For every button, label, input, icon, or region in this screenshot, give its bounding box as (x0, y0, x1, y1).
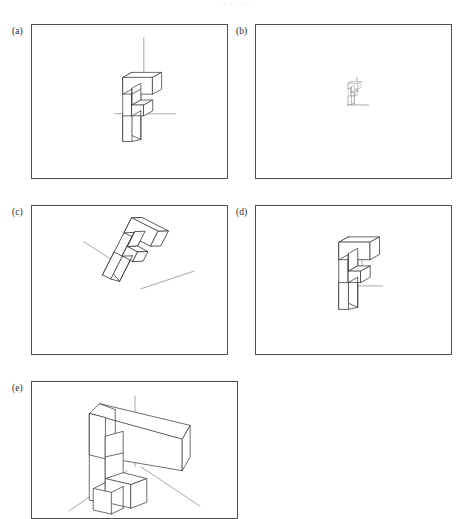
panel-label-c: (c) (12, 207, 23, 218)
panel-label-d: (d) (236, 207, 247, 218)
block-letter-f-a (123, 72, 161, 141)
block-letter-f-b (348, 82, 361, 105)
block-letter-f-d (339, 237, 379, 310)
panel-label-b: (b) (236, 26, 247, 37)
panel-a (31, 24, 228, 179)
panel-b (255, 24, 452, 179)
page-header-strip: · · · · ·· (0, 0, 465, 9)
block-letter-f-e (90, 404, 191, 514)
panel-a-canvas (32, 25, 227, 178)
panel-b-canvas (256, 25, 451, 178)
panel-e-canvas (32, 382, 237, 518)
panel-c-canvas (32, 206, 227, 354)
panel-label-e: (e) (12, 383, 23, 394)
panel-c (31, 205, 228, 355)
block-letter-f-c (103, 213, 169, 292)
panel-e (31, 381, 238, 519)
panel-d (255, 205, 452, 355)
figure-root: · · · · ·· (a) (0, 0, 465, 519)
panel-label-a: (a) (12, 26, 23, 37)
panel-d-canvas (256, 206, 451, 354)
